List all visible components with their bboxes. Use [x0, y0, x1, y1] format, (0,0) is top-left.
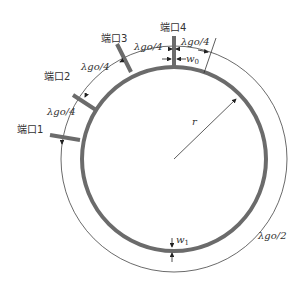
port4-label: 端口4 — [160, 21, 186, 33]
lambda-label-port1-2: λgo/4 — [46, 106, 76, 117]
lambda-label-port3-4: λgo/4 — [133, 41, 163, 52]
port1-label: 端口1 — [17, 123, 43, 135]
ring-coupler-diagram: r w0 w1 端口4 端口3 端口2 端口1 λgo/4 λgo/4 λgo/… — [0, 0, 297, 290]
radius-line — [174, 99, 236, 159]
radius-label: r — [192, 116, 198, 127]
port3-label: 端口3 — [101, 32, 127, 44]
port3-stub — [117, 44, 131, 72]
w1-label: w1 — [176, 234, 189, 247]
lambda-label-half: λgo/2 — [257, 230, 287, 241]
port1-stub — [50, 135, 80, 140]
lambda-label-port2-3: λgo/4 — [80, 61, 110, 72]
w0-label: w0 — [186, 53, 199, 66]
port2-label: 端口2 — [44, 70, 70, 82]
lambda-label-port4-right: λgo/4 — [180, 36, 210, 47]
